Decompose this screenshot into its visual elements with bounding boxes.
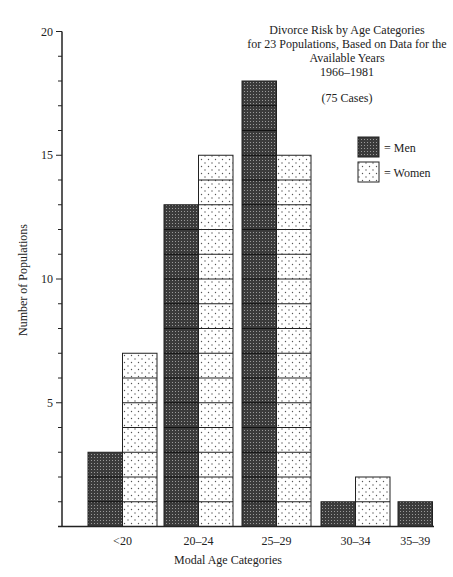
y-tick-label: 20 xyxy=(41,25,53,39)
chart-subtitle: (75 Cases) xyxy=(322,91,373,105)
legend: = Men = Women xyxy=(358,137,431,182)
bar-women xyxy=(277,155,312,526)
legend-swatch-men xyxy=(358,137,379,157)
legend-label-men: = Men xyxy=(384,141,416,155)
bars xyxy=(88,81,433,527)
title-line-1: Divorce Risk by Age Categories xyxy=(269,23,425,37)
legend-swatch-women xyxy=(358,162,379,182)
bar-men xyxy=(321,502,356,527)
x-axis-label: Modal Age Categories xyxy=(174,553,282,567)
x-tick-label: 30–34 xyxy=(341,534,371,548)
chart-title: Divorce Risk by Age Categories for 23 Po… xyxy=(247,23,446,105)
y-axis-label: Number of Populations xyxy=(16,224,30,336)
bar-women xyxy=(356,477,391,527)
y-tick-label: 10 xyxy=(41,272,53,286)
divorce-risk-chart: Divorce Risk by Age Categories for 23 Po… xyxy=(0,0,453,577)
x-tick-label: 35–39 xyxy=(400,534,430,548)
x-tick-labels: <2020–2425–2930–3435–39 xyxy=(113,534,430,548)
bar-men xyxy=(88,452,123,526)
y-tick-label: 5 xyxy=(47,396,53,410)
bar-men xyxy=(164,205,199,527)
bar-women xyxy=(199,155,234,526)
x-tick-label: 25–29 xyxy=(262,534,292,548)
bar-men xyxy=(242,81,277,527)
title-line-4: 1966–1981 xyxy=(320,65,374,79)
y-tick-label: 15 xyxy=(41,148,53,162)
y-axis: 5101520 xyxy=(41,25,62,527)
bar-women xyxy=(123,353,158,526)
x-tick-label: 20–24 xyxy=(184,534,214,548)
x-tick-label: <20 xyxy=(113,534,132,548)
title-line-2: for 23 Populations, Based on Data for th… xyxy=(247,37,446,51)
legend-label-women: = Women xyxy=(384,166,431,180)
title-line-3: Available Years xyxy=(309,51,384,65)
bar-men xyxy=(398,502,433,527)
